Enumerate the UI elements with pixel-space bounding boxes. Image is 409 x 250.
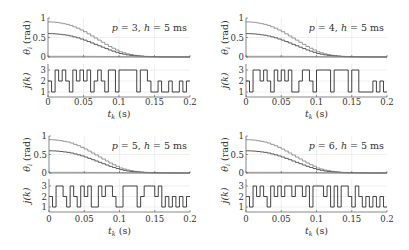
y-axis-label-theta: θi (rad) <box>21 137 34 172</box>
x-axis-label: tk (s) <box>107 108 130 121</box>
y-tick-label: 0.5 <box>32 33 46 43</box>
y-tick-label: 0.5 <box>230 150 244 160</box>
y-tick-label: 3 <box>42 181 47 191</box>
y-axis-label-j: j(k) <box>21 72 32 90</box>
y-tick-label: 1 <box>42 131 47 141</box>
x-tick-label: 0.2 <box>380 97 394 107</box>
x-tick-label: 0 <box>46 214 51 224</box>
y-tick-label: 1 <box>42 202 47 212</box>
y-axis-label-j: j(k) <box>21 187 32 205</box>
x-tick-label: 0.15 <box>342 97 361 107</box>
x-tick-label: 0.1 <box>310 97 324 107</box>
x-tick-label: 0.05 <box>74 97 93 107</box>
x-tick-label: 0 <box>243 97 248 107</box>
x-tick-label: 0.05 <box>272 214 291 224</box>
panel-annotation: p = 3, h = 5 ms <box>112 22 187 33</box>
y-tick-label: 1 <box>239 131 244 141</box>
panel-annotation: p = 4, h = 5 ms <box>309 22 384 33</box>
y-tick-label: 0 <box>239 168 244 178</box>
subplot-panel-3: 00.050.10.150.200.51123θi (rad)j(k)tk (s… <box>21 131 197 238</box>
x-axis-label: tk (s) <box>305 225 328 238</box>
y-tick-label: 3 <box>239 65 244 75</box>
series-j-k <box>48 70 190 92</box>
subplot-panel-4: 00.050.10.150.200.51123θi (rad)j(k)tk (s… <box>219 131 394 238</box>
x-tick-label: 0 <box>45 97 50 107</box>
x-tick-label: 0.15 <box>145 97 164 107</box>
panel-annotation: p = 5, h = 5 ms <box>112 140 187 151</box>
y-axis-label-j: j(k) <box>219 72 230 90</box>
x-tick-label: 0.15 <box>145 214 164 224</box>
x-tick-label: 0 <box>243 214 248 224</box>
x-tick-label: 0.1 <box>113 214 127 224</box>
y-tick-label: 0.5 <box>230 33 244 43</box>
x-tick-label: 0.1 <box>112 97 126 107</box>
y-tick-label: 1 <box>41 87 46 97</box>
x-tick-label: 0.15 <box>342 214 361 224</box>
y-tick-label: 0 <box>42 168 47 178</box>
subplot-panel-2: 00.050.10.150.200.51123θi (rad)j(k)tk (s… <box>219 13 394 121</box>
x-axis-label: tk (s) <box>305 108 328 121</box>
y-tick-label: 2 <box>239 76 244 86</box>
y-tick-label: 3 <box>239 181 244 191</box>
y-axis-label-j: j(k) <box>219 187 230 205</box>
y-tick-label: 2 <box>42 192 47 202</box>
panel-annotation: p = 6, h = 5 ms <box>309 140 384 151</box>
x-tick-label: 0.05 <box>75 214 94 224</box>
y-tick-label: 0 <box>239 52 244 62</box>
y-tick-label: 2 <box>41 76 46 86</box>
y-tick-label: 0 <box>41 52 46 62</box>
y-tick-label: 1 <box>41 13 46 23</box>
subplot-panel-1: 00.050.10.150.200.51123θi (rad)j(k)tk (s… <box>21 13 197 121</box>
figure-canvas: 00.050.10.150.200.51123θi (rad)j(k)tk (s… <box>0 0 409 250</box>
x-tick-label: 0.2 <box>183 97 197 107</box>
x-tick-label: 0.2 <box>380 214 394 224</box>
x-axis-label: tk (s) <box>108 225 131 238</box>
y-tick-label: 3 <box>41 65 46 75</box>
x-tick-label: 0.05 <box>272 97 291 107</box>
figure-2x2-grid: 00.050.10.150.200.51123θi (rad)j(k)tk (s… <box>0 0 409 250</box>
y-tick-label: 1 <box>239 202 244 212</box>
y-tick-label: 1 <box>239 13 244 23</box>
y-tick-label: 2 <box>239 192 244 202</box>
y-tick-label: 1 <box>239 87 244 97</box>
x-tick-label: 0.2 <box>183 214 197 224</box>
x-tick-label: 0.1 <box>310 214 324 224</box>
y-tick-label: 0.5 <box>33 150 47 160</box>
